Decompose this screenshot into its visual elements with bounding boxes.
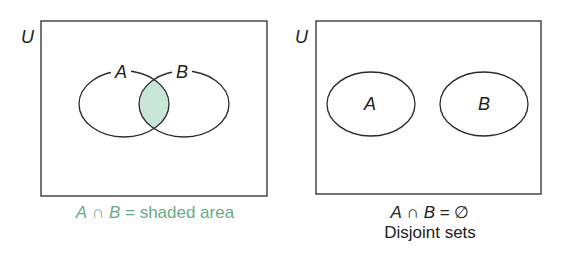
caption-set-a: A [391, 203, 402, 222]
universe-label-right: U [295, 27, 309, 47]
caption-result: shaded area [140, 203, 235, 222]
caption-op: ∩ [92, 203, 104, 222]
universe-label-left: U [21, 27, 35, 47]
caption-intersection: A ∩ B = shaded area [20, 203, 290, 223]
caption-empty-set: ∅ [454, 203, 469, 222]
caption-eq: = [125, 203, 135, 222]
set-a-label-left: A [114, 62, 127, 82]
set-b-label-right: B [478, 94, 490, 114]
set-b-label-left: B [176, 62, 188, 82]
universe-rect-right [316, 21, 541, 194]
caption-set-b: B [424, 203, 435, 222]
caption-eq: = [440, 203, 450, 222]
caption-set-b: B [109, 203, 120, 222]
caption-formula: A ∩ B = ∅ [330, 203, 530, 223]
caption-op: ∩ [407, 203, 419, 222]
set-a-label-right: A [363, 94, 376, 114]
caption-subtitle: Disjoint sets [330, 223, 530, 243]
caption-disjoint: A ∩ B = ∅ Disjoint sets [330, 203, 530, 243]
caption-set-a: A [76, 203, 87, 222]
